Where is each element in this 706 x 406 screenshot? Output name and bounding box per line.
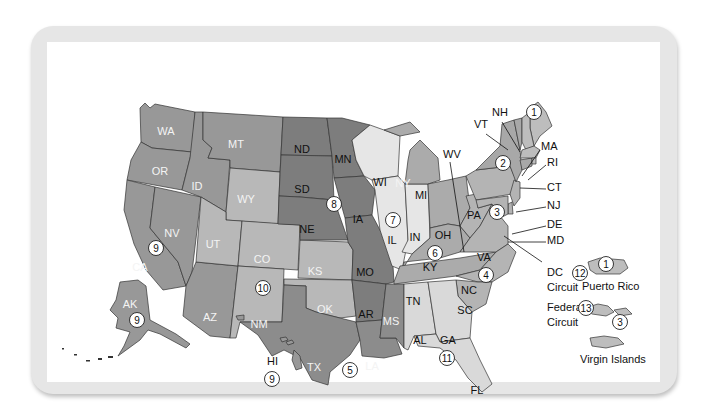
- label-fl: FL: [471, 384, 484, 396]
- label-sc: SC: [457, 304, 472, 316]
- label-vt: VT: [474, 118, 488, 130]
- label-sd: SD: [294, 183, 309, 195]
- svg-text:Circuit: Circuit: [547, 316, 578, 328]
- federal-circuit-label: Federal Circuit 13: [547, 301, 594, 329]
- state-ma[interactable]: [520, 146, 540, 158]
- label-co: CO: [254, 253, 271, 265]
- label-ia: IA: [353, 213, 364, 225]
- label-ms: MS: [383, 315, 400, 327]
- label-puerto-rico: Puerto Rico: [582, 280, 639, 292]
- label-wv: WV: [443, 148, 461, 160]
- label-la: LA: [365, 360, 379, 372]
- territory-vi-south[interactable]: [590, 336, 624, 348]
- circuit-7-marker: 7: [390, 215, 396, 226]
- state-ak[interactable]: [110, 280, 190, 356]
- circuit-2-marker: 2: [500, 158, 506, 169]
- label-ky: KY: [423, 261, 438, 273]
- label-al: AL: [413, 334, 426, 346]
- label-nd: ND: [294, 143, 310, 155]
- label-ct: CT: [547, 181, 562, 193]
- label-mn: MN: [334, 153, 351, 165]
- circuit-8-marker: 8: [331, 199, 337, 210]
- label-az: AZ: [203, 311, 217, 323]
- circuit-9-ak-marker: 9: [134, 315, 140, 326]
- label-nm: NM: [250, 318, 267, 330]
- svg-text:DC: DC: [547, 266, 563, 278]
- circuit-10-marker: 10: [257, 283, 269, 294]
- label-mt: MT: [228, 138, 244, 150]
- label-ks: KS: [308, 265, 323, 277]
- label-hi: HI: [267, 355, 278, 367]
- circuit-5-marker: 5: [347, 365, 353, 376]
- label-ga: GA: [440, 334, 457, 346]
- circuit-11-marker: 11: [442, 353, 453, 364]
- label-mo: MO: [356, 266, 374, 278]
- label-nv: NV: [164, 227, 180, 239]
- state-pa[interactable]: [466, 166, 516, 200]
- label-nh: NH: [492, 106, 508, 118]
- circuit-1-marker: 1: [531, 107, 537, 118]
- leader-de: [512, 226, 546, 234]
- label-tx: TX: [307, 361, 322, 373]
- state-de[interactable]: [508, 202, 513, 214]
- label-nc: NC: [461, 284, 477, 296]
- leader-ri: [528, 165, 546, 180]
- label-wa: WA: [157, 125, 175, 137]
- circuit-6-marker: 6: [432, 248, 438, 259]
- label-or: OR: [152, 165, 169, 177]
- state-ia[interactable]: [334, 176, 375, 218]
- label-ma: MA: [541, 140, 558, 152]
- label-ny: NY: [395, 177, 411, 189]
- label-in: IN: [410, 231, 421, 243]
- label-ok: OK: [317, 303, 334, 315]
- label-il: IL: [387, 234, 396, 246]
- label-wy: WY: [237, 193, 255, 205]
- circuit-13-marker: 13: [580, 303, 592, 314]
- circuit-9-marker: 9: [153, 243, 159, 254]
- label-ar: AR: [358, 308, 373, 320]
- label-va: VA: [477, 251, 492, 263]
- label-nj: NJ: [547, 199, 560, 211]
- label-virgin-islands: Virgin Islands: [580, 353, 646, 365]
- circuit-map: WA OR CA NV ID MT AZ WY UT CO NM KS OK T…: [0, 0, 706, 406]
- circuit-12-marker: 12: [574, 268, 586, 279]
- circuit-3-marker: 3: [494, 207, 500, 218]
- label-ri: RI: [547, 156, 558, 168]
- circuit-4-marker: 4: [483, 270, 489, 281]
- label-mi: MI: [415, 189, 427, 201]
- label-wi: WI: [373, 176, 386, 188]
- circuit-3-vi-marker: 3: [617, 317, 623, 328]
- label-de: DE: [547, 218, 562, 230]
- label-id: ID: [192, 180, 203, 192]
- leader-ct: [520, 188, 546, 189]
- aleutian-islands: [62, 348, 113, 362]
- svg-text:Circuit: Circuit: [547, 281, 578, 293]
- label-ca: CA: [132, 261, 148, 273]
- state-ks[interactable]: [298, 240, 353, 280]
- label-oh: OH: [435, 229, 452, 241]
- label-tn: TN: [406, 295, 421, 307]
- label-ne: NE: [299, 223, 314, 235]
- label-md: MD: [547, 234, 564, 246]
- label-ak: AK: [123, 298, 138, 310]
- circuit-9-hi-marker: 9: [269, 374, 275, 385]
- label-pa: PA: [467, 209, 482, 221]
- circuit-1-pr-marker: 1: [603, 259, 609, 270]
- state-az[interactable]: [183, 262, 238, 338]
- label-ut: UT: [206, 238, 221, 250]
- leader-nj: [516, 207, 546, 212]
